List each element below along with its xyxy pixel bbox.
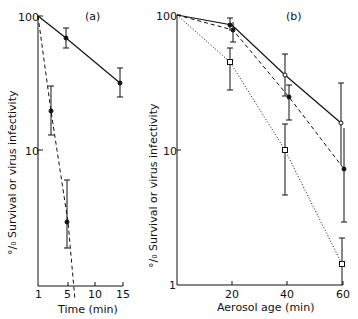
panel-b-ytick-100: 100	[156, 10, 177, 23]
panel-a: 100 10 1 5 10 15 Time (min) (a) °/₀ Surv…	[6, 10, 130, 316]
panel-b-ytick-10: 10	[163, 145, 177, 158]
panel-a-ytick-100: 100	[18, 11, 39, 24]
panel-b-ytick-1: 1	[169, 279, 176, 292]
panel-a-ytick-10: 10	[25, 145, 39, 158]
panel-b-ylabel: °/₀ Survival or virus infectivity	[147, 103, 160, 268]
panel-b-dashed-line	[177, 15, 344, 169]
panel-b-xtick-40: 40	[280, 288, 294, 301]
panel-b: 100 10 1 20 40 60 Aerosol age (min) (b) …	[147, 10, 350, 314]
figure: 100 10 1 5 10 15 Time (min) (a) °/₀ Surv…	[0, 0, 358, 319]
panel-a-solid-line	[38, 16, 120, 83]
panel-b-label: (b)	[286, 10, 302, 23]
panel-a-xtick-10: 10	[88, 288, 102, 301]
panel-b-solid-line	[177, 15, 341, 123]
panel-a-xtick-15: 15	[116, 288, 130, 301]
panel-b-xlabel: Aerosol age (min)	[217, 301, 314, 314]
panel-b-dotted-line	[177, 15, 342, 264]
panel-b-xtick-20: 20	[225, 288, 239, 301]
panel-b-xtick-60: 60	[336, 288, 350, 301]
panel-a-xtick-5: 5	[64, 288, 71, 301]
panel-a-xtick-1: 1	[35, 288, 42, 301]
panel-a-label: (a)	[85, 10, 100, 23]
panel-a-xlabel: Time (min)	[57, 303, 118, 316]
panel-a-ylabel: °/₀ Survival or virus infectivity	[6, 90, 19, 255]
panel-a-dashed-line	[38, 16, 75, 300]
